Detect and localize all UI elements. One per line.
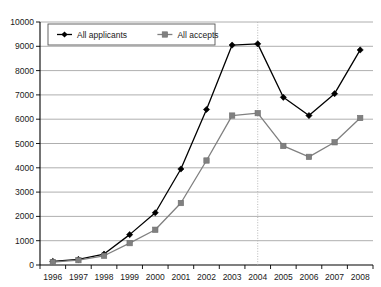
data-point[interactable]	[229, 113, 234, 118]
data-point[interactable]	[357, 115, 362, 120]
data-point[interactable]	[127, 240, 132, 245]
data-point[interactable]	[76, 257, 81, 262]
data-point[interactable]	[281, 143, 286, 148]
legend-label: All accepts	[177, 30, 218, 40]
legend: All applicantsAll accepts	[48, 24, 219, 45]
data-point[interactable]	[203, 106, 209, 112]
y-tick-label: 7000	[15, 90, 34, 100]
x-tick-label: 2005	[274, 272, 293, 282]
x-tick-label: 1999	[120, 272, 139, 282]
x-tick-label: 2006	[300, 272, 319, 282]
data-point[interactable]	[50, 259, 55, 264]
series-line	[53, 113, 360, 262]
x-tick-label: 2001	[171, 272, 190, 282]
y-tick-label: 8000	[15, 66, 34, 76]
x-tick-label: 2008	[351, 272, 370, 282]
y-tick-label: 4000	[15, 163, 34, 173]
data-point[interactable]	[101, 253, 106, 258]
data-point[interactable]	[229, 42, 235, 48]
x-tick-label: 1998	[95, 272, 114, 282]
y-tick-label: 6000	[15, 114, 34, 124]
y-tick-label: 10000	[10, 17, 34, 27]
data-point[interactable]	[178, 166, 184, 172]
data-point[interactable]	[153, 227, 158, 232]
x-tick-label: 2007	[325, 272, 344, 282]
y-tick-label: 5000	[15, 139, 34, 149]
y-tick-label: 1000	[15, 236, 34, 246]
x-tick-label: 2003	[223, 272, 242, 282]
x-tick-label: 1997	[69, 272, 88, 282]
series-2	[50, 110, 363, 264]
data-point[interactable]	[306, 154, 311, 159]
y-tick-label: 9000	[15, 41, 34, 51]
data-point[interactable]	[357, 47, 363, 53]
chart-container: 0100020003000400050006000700080009000100…	[0, 0, 381, 287]
x-tick-label: 2000	[146, 272, 165, 282]
series-line	[53, 44, 360, 261]
y-tick-label: 3000	[15, 187, 34, 197]
data-point[interactable]	[178, 200, 183, 205]
x-axis-ticks: 1996199719981999200020012002200320042005…	[40, 265, 373, 282]
x-tick-label: 2004	[248, 272, 267, 282]
data-point[interactable]	[255, 110, 260, 115]
data-point[interactable]	[204, 158, 209, 163]
y-tick-label: 2000	[15, 211, 34, 221]
x-tick-label: 1996	[43, 272, 62, 282]
data-point[interactable]	[332, 140, 337, 145]
y-tick-label: 0	[29, 260, 34, 270]
legend-label: All applicants	[77, 30, 127, 40]
legend-marker-square-icon	[162, 32, 167, 37]
x-tick-label: 2002	[197, 272, 216, 282]
line-chart: 0100020003000400050006000700080009000100…	[0, 0, 381, 287]
